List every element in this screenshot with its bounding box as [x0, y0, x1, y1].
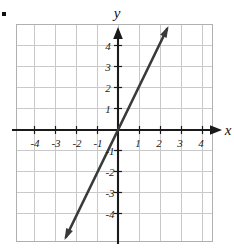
y-tick-label--1: -1 — [105, 146, 114, 157]
y-tick-label-3: 3 — [105, 62, 111, 73]
y-tick-label-2: 2 — [105, 83, 111, 94]
x-tick-label-2: 2 — [156, 138, 162, 149]
x-axis-label: x — [225, 123, 232, 138]
graph-figure: y x -4 -3 -2 -1 1 2 3 4 4 3 2 1 -1 -2 -3… — [0, 0, 234, 250]
x-tick-label--1: -1 — [93, 138, 102, 149]
y-tick-label--2: -2 — [105, 167, 114, 178]
y-tick-label--3: -3 — [105, 188, 114, 199]
y-tick-label-4: 4 — [105, 41, 111, 52]
x-axis-arrowhead — [210, 125, 222, 135]
y-axis-label: y — [114, 6, 121, 21]
x-tick-label-3: 3 — [177, 138, 183, 149]
y-tick-label-1: 1 — [105, 104, 111, 115]
x-tick-label--2: -2 — [72, 138, 81, 149]
x-tick-label--3: -3 — [51, 138, 60, 149]
y-tick-label--4: -4 — [105, 209, 114, 220]
x-tick-label-4: 4 — [198, 138, 204, 149]
x-tick-label--4: -4 — [30, 138, 39, 149]
x-tick-label-1: 1 — [135, 138, 141, 149]
coordinate-plane-svg — [0, 0, 234, 250]
